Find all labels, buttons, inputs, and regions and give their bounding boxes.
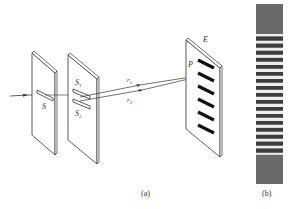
screen-e	[186, 38, 222, 157]
panel-a: S S1 S2 r1 r2 P E (a)	[10, 35, 222, 198]
label-e: E	[202, 35, 208, 44]
label-r2: r2	[127, 96, 133, 105]
label-s: S	[42, 102, 46, 111]
double-slit-diagram: S S1 S2 r1 r2 P E (a)	[0, 0, 292, 209]
label-r1: r1	[127, 76, 133, 85]
incident-ray	[10, 95, 27, 96]
panel-b: (b)	[256, 4, 283, 198]
double-slit-plate	[68, 53, 99, 164]
caption-b: (b)	[262, 189, 272, 198]
label-p: P	[187, 60, 193, 69]
caption-a: (a)	[141, 189, 150, 198]
